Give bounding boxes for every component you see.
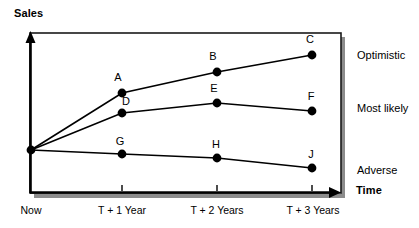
- point-label-c: C: [306, 33, 314, 45]
- scenario-label-optimistic: Optimistic: [357, 49, 406, 61]
- y-axis-title: Sales: [14, 7, 43, 19]
- scenario-label-adverse: Adverse: [357, 164, 397, 176]
- point-label-e: E: [210, 82, 217, 94]
- x-axis-title: Time: [356, 184, 382, 196]
- x-tick-label-t3: T + 3 Years: [286, 204, 339, 216]
- x-tick-label-t2: T + 2 Years: [190, 204, 243, 216]
- point-label-b: B: [209, 50, 216, 62]
- data-point-g: [118, 150, 127, 159]
- data-point-c: [308, 51, 317, 60]
- scenario-planning-chart: Sales Time A B C D E F G H J Optimistic …: [0, 0, 419, 228]
- point-label-g: G: [116, 135, 125, 147]
- data-point-b: [213, 68, 222, 77]
- data-point-d: [118, 109, 127, 118]
- chart-frame: [30, 33, 341, 193]
- data-point-j: [308, 164, 317, 173]
- point-label-f: F: [308, 90, 315, 102]
- chart-canvas: Sales Time A B C D E F G H J Optimistic …: [0, 0, 419, 228]
- data-point-f: [308, 107, 317, 116]
- x-tick-label-t1: T + 1 Year: [98, 204, 146, 216]
- scenario-label-most-likely: Most likely: [357, 102, 409, 114]
- data-point-e: [213, 99, 222, 108]
- data-point-origin: [27, 146, 36, 155]
- data-point-h: [213, 154, 222, 163]
- point-label-a: A: [114, 71, 122, 83]
- point-label-d: D: [122, 95, 130, 107]
- point-label-j: J: [308, 148, 314, 160]
- frame-shadow-bottom: [34, 194, 345, 198]
- x-tick-label-now: Now: [20, 204, 41, 216]
- point-label-h: H: [212, 138, 220, 150]
